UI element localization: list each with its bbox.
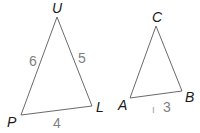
side-label-ab: 3	[163, 99, 171, 115]
side-label-pl: 4	[53, 115, 61, 131]
vertex-label-c: C	[152, 9, 163, 25]
vertex-label-u: U	[52, 0, 63, 16]
triangle-upl: U P L 6 5 4	[7, 0, 104, 131]
side-label-ul: 5	[78, 50, 86, 66]
vertex-label-p: P	[7, 114, 17, 130]
vertex-label-a: A	[117, 97, 127, 113]
side-label-up: 6	[29, 53, 37, 69]
triangle-acb: C A B 3 ı	[117, 9, 194, 115]
triangle-diagram: U P L 6 5 4 C A B 3 ı	[0, 0, 200, 133]
vertex-label-b: B	[185, 89, 194, 105]
handwritten-mark: ı	[152, 104, 155, 115]
vertex-label-l: L	[96, 99, 104, 115]
triangle-acb-outline	[130, 26, 182, 98]
